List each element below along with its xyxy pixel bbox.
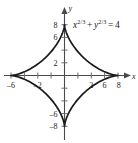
x-tick-label-8: 8 <box>117 81 121 90</box>
y-tick-label-8: 8 <box>54 21 58 30</box>
astroid-figure: –6 –2 2 6 8 8 6 2 –6 –8 x y x2/3+y2/3=4 <box>0 0 138 143</box>
y-tick-label-2: 2 <box>54 59 58 68</box>
x-tick-label-2: 2 <box>89 81 93 90</box>
y-tick-label-minus8: –8 <box>49 122 58 131</box>
y-tick-label-6: 6 <box>54 33 58 42</box>
equation-equals-sign: = <box>107 20 115 30</box>
x-tick-label-6: 6 <box>103 81 107 90</box>
x-tick-label-minus6: –6 <box>6 81 15 90</box>
x-axis-arrow-icon <box>124 72 131 78</box>
equation-operator: + <box>86 20 94 30</box>
equation-annotation: x2/3+y2/3=4 <box>73 20 120 30</box>
y-tick-label-minus6: –6 <box>49 110 58 119</box>
equation-rhs-value: 4 <box>115 20 120 30</box>
y-axis-label: y <box>68 4 73 13</box>
x-axis-label: x <box>131 72 136 81</box>
equation-exponent-2: 2/3 <box>98 18 106 25</box>
y-axis-arrow-icon <box>61 7 67 14</box>
x-tick-label-minus2: –2 <box>33 81 42 90</box>
equation-exponent-1: 2/3 <box>77 18 85 25</box>
